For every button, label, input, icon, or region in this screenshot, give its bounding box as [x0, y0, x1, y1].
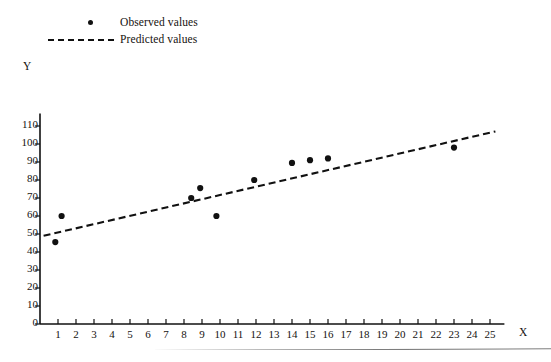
observed-value-point [289, 160, 295, 166]
observed-value-point [451, 145, 457, 151]
observed-value-point [52, 239, 58, 245]
observed-value-point [213, 213, 219, 219]
page-footer-rule [0, 348, 551, 350]
observed-value-point [251, 177, 257, 183]
scatter-plot-figure: Observed values Predicted values Y X 010… [0, 0, 551, 362]
predicted-values-line [44, 131, 496, 235]
observed-value-point [188, 195, 194, 201]
plot-canvas [0, 0, 551, 362]
observed-value-point [307, 157, 313, 163]
observed-value-point [197, 185, 203, 191]
observed-value-point [325, 155, 331, 161]
observed-value-point [59, 213, 65, 219]
